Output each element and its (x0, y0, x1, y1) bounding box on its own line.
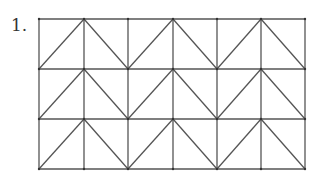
grid-diagram (0, 0, 320, 183)
vertex-dot (304, 118, 306, 120)
diagonal-line (39, 69, 84, 119)
vertex-dot (38, 68, 40, 70)
vertex-dot (172, 18, 174, 20)
vertex-dot (127, 118, 129, 120)
vertex-dot (127, 68, 129, 70)
vertex-dot (38, 118, 40, 120)
vertex-dot (260, 18, 262, 20)
vertex-dot (260, 68, 262, 70)
vertex-dot (172, 168, 174, 170)
vertex-dot (127, 168, 129, 170)
vertex-dot (83, 118, 85, 120)
vertex-dot (304, 68, 306, 70)
diagonal-line (173, 119, 217, 169)
vertex-dot (38, 168, 40, 170)
vertex-dot (304, 168, 306, 170)
vertex-dot (216, 18, 218, 20)
vertex-dot (260, 168, 262, 170)
vertex-dot (304, 18, 306, 20)
vertex-dot (260, 118, 262, 120)
vertex-dot (216, 118, 218, 120)
vertex-dot (216, 68, 218, 70)
diagonal-line (217, 19, 261, 69)
diagonal-line (261, 19, 305, 69)
vertex-dot (127, 18, 129, 20)
vertex-dot (38, 18, 40, 20)
diagonal-line (261, 69, 305, 119)
diagonal-line (217, 119, 261, 169)
diagonal-line (84, 119, 128, 169)
diagonal-line (128, 19, 173, 69)
diagonal-line (39, 119, 84, 169)
diagonal-line (173, 19, 217, 69)
diagonal-line (84, 19, 128, 69)
vertex-dot (172, 68, 174, 70)
diagonal-line (128, 69, 173, 119)
diagonal-line (84, 69, 128, 119)
vertex-dot (83, 68, 85, 70)
diagonal-line (261, 119, 305, 169)
vertex-dot (83, 18, 85, 20)
vertex-dot (216, 168, 218, 170)
vertex-dot (172, 118, 174, 120)
diagonal-line (173, 69, 217, 119)
vertex-dot (83, 168, 85, 170)
diagonal-line (39, 19, 84, 69)
diagonal-line (128, 119, 173, 169)
diagonal-line (217, 69, 261, 119)
